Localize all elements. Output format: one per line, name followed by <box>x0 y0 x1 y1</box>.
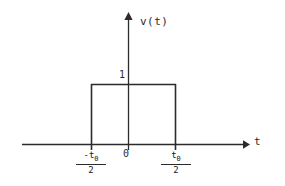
numerator-subscript: 0 <box>177 155 181 163</box>
y-axis-arrowhead <box>124 12 132 20</box>
x-tick-label-negative-t0-over-2: -t0 2 <box>76 151 106 176</box>
fraction-numerator: -t0 <box>76 151 106 165</box>
origin-label: 0 <box>123 149 130 159</box>
fraction-denominator: 2 <box>76 165 106 175</box>
fraction-denominator: 2 <box>161 165 191 175</box>
numerator-subscript: 0 <box>94 155 98 163</box>
x-tick-label-positive-t0-over-2: t0 2 <box>161 151 191 176</box>
amplitude-label: 1 <box>119 70 126 80</box>
numerator-text: -t <box>83 150 94 160</box>
y-axis-label: v(t) <box>140 16 169 27</box>
fraction-numerator: t0 <box>161 151 191 165</box>
x-axis-arrowhead <box>243 140 250 148</box>
x-axis-label: t <box>254 136 261 147</box>
figure-canvas: v(t) t 1 0 -t0 2 t0 2 <box>0 0 285 186</box>
